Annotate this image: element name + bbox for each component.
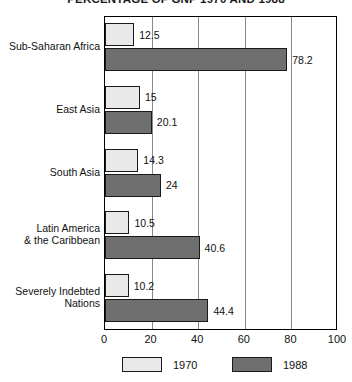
bar-1988-4 (105, 299, 208, 322)
bar-value-1970-3: 10.5 (134, 218, 154, 229)
bar-1988-0 (105, 48, 287, 71)
bar-value-1988-0: 78.2 (292, 55, 312, 66)
category-label-line: & the Caribbean (0, 234, 100, 246)
bar-1988-1 (105, 111, 152, 134)
bar-1970-2 (105, 149, 138, 172)
chart-legend: 19701988 (104, 357, 337, 375)
x-tick-80: 80 (284, 333, 296, 345)
x-axis-tick-labels: 020406080100 (0, 333, 352, 349)
chart-title: PERCENTAGE OF GNP 1970 AND 1988 (0, 0, 352, 5)
bar-1988-2 (105, 174, 161, 197)
legend-swatch-1988 (232, 357, 272, 372)
bar-value-1988-3: 40.6 (205, 243, 225, 254)
bar-value-1970-0: 12.5 (139, 30, 159, 41)
x-tick-0: 0 (101, 333, 107, 345)
bar-value-1970-2: 14.3 (143, 155, 163, 166)
category-label-line: South Asia (0, 166, 100, 178)
category-label-line: Severely Indebted (0, 285, 100, 297)
category-label-2: South Asia (0, 166, 100, 178)
category-label-0: Sub-Saharan Africa (0, 40, 100, 52)
bar-value-1970-1: 15 (145, 92, 157, 103)
bar-1970-1 (105, 86, 140, 109)
category-label-1: East Asia (0, 103, 100, 115)
category-label-line: Sub-Saharan Africa (0, 40, 100, 52)
category-label-4: Severely IndebtedNations (0, 285, 100, 309)
category-label-line: Nations (0, 297, 100, 309)
bar-value-1988-2: 24 (166, 180, 178, 191)
legend-label-1988: 1988 (283, 359, 307, 371)
legend-label-1970: 1970 (173, 359, 197, 371)
bar-value-1988-4: 44.4 (213, 306, 233, 317)
bar-value-1970-4: 10.2 (134, 281, 154, 292)
category-label-3: Latin America& the Caribbean (0, 222, 100, 246)
legend-item-1970: 1970 (122, 357, 197, 372)
x-tick-20: 20 (144, 333, 156, 345)
x-tick-60: 60 (238, 333, 250, 345)
legend-item-1988: 1988 (232, 357, 307, 372)
category-label-line: East Asia (0, 103, 100, 115)
bars-layer: 12.578.21520.114.32410.540.610.244.4 (105, 17, 336, 329)
bar-1970-4 (105, 274, 129, 297)
bar-1970-0 (105, 23, 134, 46)
category-label-line: Latin America (0, 222, 100, 234)
x-tick-40: 40 (191, 333, 203, 345)
x-tick-100: 100 (328, 333, 346, 345)
legend-swatch-1970 (122, 357, 162, 372)
plot-area: 12.578.21520.114.32410.540.610.244.4 (104, 16, 337, 330)
bar-1970-3 (105, 211, 129, 234)
bar-1988-3 (105, 236, 200, 259)
bar-value-1988-1: 20.1 (157, 117, 177, 128)
category-axis-labels: Sub-Saharan AfricaEast AsiaSouth AsiaLat… (0, 16, 100, 330)
